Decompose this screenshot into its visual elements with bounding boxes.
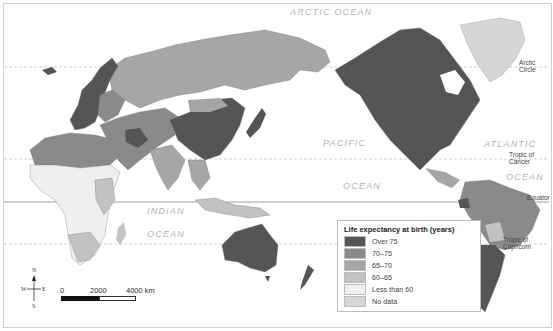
compass-arrow-icon [20,267,48,311]
legend-item-less-than-60: Less than 60 [344,284,413,295]
legend-item-70-75: 70–75 [344,248,392,259]
label-pacific-ocean: OCEAN [343,181,381,191]
scale-bar-empty [99,296,136,301]
label-pacific: PACIFIC [323,138,366,148]
scale-bar-filled [61,296,100,301]
region-new-zealand [300,265,314,290]
legend-label: Over 75 [372,237,398,246]
legend-swatch [344,284,366,295]
region-central-america [425,168,460,188]
legend-item-65-70: 65–70 [344,260,392,271]
label-indian: INDIAN [147,206,185,216]
region-greenland [460,18,525,82]
legend: Life expectancy at birth (years) Over 75… [337,220,481,312]
label-atlantic-ocean: OCEAN [506,172,544,182]
legend-label: 60–65 [372,273,392,282]
region-north-africa [30,133,120,168]
legend-title: Life expectancy at birth (years) [344,225,454,234]
label-tropic-of-cancer: Tropic of Cancer [509,151,553,165]
region-ecuador [458,198,470,208]
label-arctic-ocean: ARCTIC OCEAN [290,7,372,17]
label-equator: Equator [527,194,550,201]
region-madagascar [116,222,126,245]
legend-swatch [344,236,366,247]
region-north-america [335,28,480,170]
region-russia [108,30,330,108]
legend-swatch [344,272,366,283]
legend-swatch [344,260,366,271]
legend-label: 65–70 [372,261,392,270]
label-indian-ocean: OCEAN [147,229,185,239]
legend-item-60-65: 60–65 [344,272,392,283]
region-japan [246,108,266,138]
scale-tick-0: 0 [60,286,64,295]
legend-label: Less than 60 [372,285,413,294]
region-southeast-asia [188,160,210,190]
label-tropic-of-capricorn: Tropic of Capricorn [503,236,553,250]
compass-rose-icon: N W E S [20,267,48,311]
scale-tick-4000: 4000 km [126,286,155,295]
region-australia [222,224,278,272]
region-indonesia [195,198,270,218]
region-india [150,145,185,190]
legend-swatch [344,248,366,259]
region-tasmania [265,276,270,282]
legend-label: No data [372,297,397,306]
legend-item-no-data: No data [344,296,397,307]
scale-tick-2000: 2000 [90,286,107,295]
legend-swatch [344,296,366,307]
label-atlantic: ATLANTIC [484,139,536,149]
legend-item-over-75: Over 75 [344,236,398,247]
label-arctic-circle: Arctic Circle [519,59,553,73]
region-iceland [42,67,57,75]
legend-label: 70–75 [372,249,392,258]
